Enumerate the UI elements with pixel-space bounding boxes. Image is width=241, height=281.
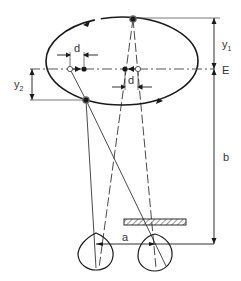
point-filled-right — [122, 66, 127, 71]
point-filled-left — [81, 66, 86, 71]
point-bottom — [83, 97, 89, 103]
label-b: b — [223, 151, 229, 163]
label-d-left: d — [74, 42, 80, 54]
stereo-viewing-diagram: y1 E b a y2 d d — [0, 0, 241, 281]
label-y2: y2 — [14, 78, 24, 92]
label-E: E — [222, 64, 229, 76]
hatched-screen — [124, 219, 186, 225]
label-a: a — [122, 231, 129, 243]
label-d-right: d — [128, 74, 134, 86]
orbit-ellipse — [46, 17, 198, 105]
point-open-right — [135, 66, 140, 71]
label-y1: y1 — [222, 38, 232, 52]
eye-right — [138, 234, 172, 271]
point-top — [130, 16, 136, 22]
point-open-left — [67, 66, 72, 71]
